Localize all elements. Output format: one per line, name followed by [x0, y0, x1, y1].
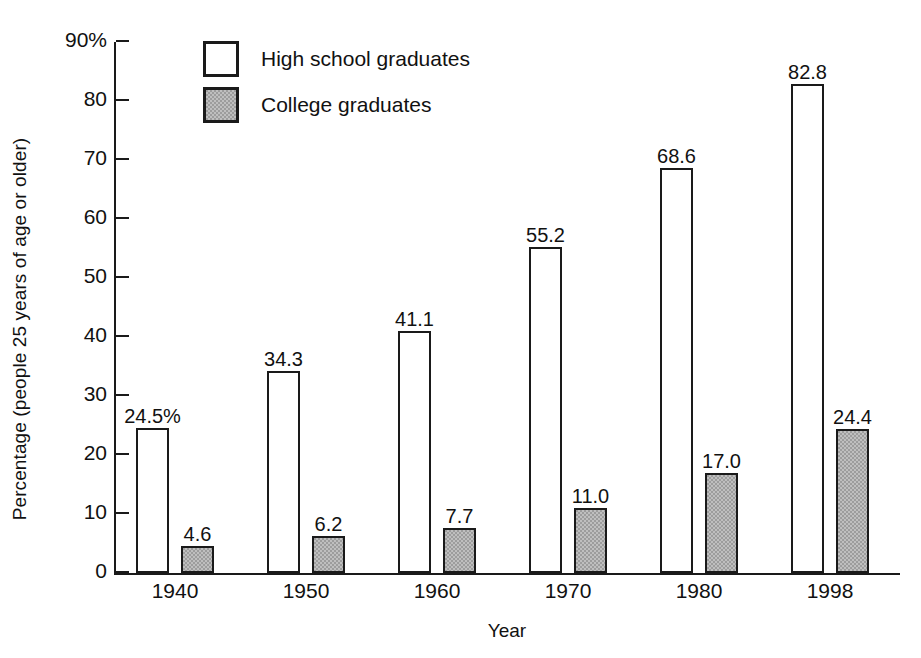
- bar-high-school: 41.1: [398, 331, 431, 573]
- y-axis-tick-label: 0: [95, 560, 107, 581]
- y-axis-tick-label: 20: [84, 442, 107, 463]
- legend-label-high-school: High school graduates: [261, 47, 470, 71]
- y-axis-tick-label: 70: [84, 147, 107, 168]
- bar-value-label: 24.4: [833, 406, 872, 428]
- bar-college: 4.6: [181, 546, 214, 573]
- bar-value-label: 17.0: [702, 450, 741, 472]
- bar-value-label: 41.1: [395, 308, 434, 330]
- x-axis-tick-label: 1960: [414, 579, 461, 603]
- y-axis-tick-label: 90%: [65, 29, 107, 50]
- bar-college: 7.7: [443, 528, 476, 573]
- legend-label-college: College graduates: [261, 93, 431, 117]
- bar-high-school: 24.5%: [136, 428, 169, 573]
- y-axis-tick: 80: [116, 99, 129, 101]
- bar-group: 82.824.41998: [791, 42, 900, 573]
- y-axis-tick-label: 10: [84, 501, 107, 522]
- y-axis-tick-label: 40: [84, 324, 107, 345]
- y-axis-line: [114, 42, 116, 573]
- y-axis-tick-label: 80: [84, 88, 107, 109]
- bar-value-label: 4.6: [184, 523, 212, 545]
- legend-item-high-school: High school graduates: [203, 36, 470, 82]
- bar-value-label: 68.6: [657, 145, 696, 167]
- y-axis-tick: 30: [116, 394, 129, 396]
- y-axis-tick: 60: [116, 217, 129, 219]
- bar-group: 68.617.01980: [660, 42, 769, 573]
- bar-value-label: 24.5%: [124, 405, 181, 427]
- bar-college: 6.2: [312, 536, 345, 573]
- bar-high-school: 82.8: [791, 84, 824, 573]
- legend-item-college: College graduates: [203, 82, 470, 128]
- bar-group: 55.211.01970: [529, 42, 638, 573]
- white-square-swatch-icon: [203, 41, 239, 77]
- bar-high-school: 55.2: [529, 247, 562, 573]
- x-axis-line: [114, 573, 900, 575]
- chart-legend: High school graduates College graduates: [203, 36, 470, 128]
- gray-square-swatch-icon: [203, 87, 239, 123]
- bar-college: 11.0: [574, 508, 607, 573]
- bar-value-label: 11.0: [572, 485, 609, 507]
- bar-chart-figure: Percentage (people 25 years of age or ol…: [0, 0, 921, 658]
- bar-value-label: 7.7: [446, 505, 474, 527]
- bar-value-label: 55.2: [526, 224, 565, 246]
- bar-high-school: 68.6: [660, 168, 693, 573]
- x-axis-tick-label: 1980: [676, 579, 723, 603]
- y-axis-tick: 90%: [116, 40, 129, 42]
- bar-value-label: 6.2: [315, 513, 343, 535]
- y-axis-tick: 50: [116, 276, 129, 278]
- y-axis-tick-label: 60: [84, 206, 107, 227]
- y-axis-tick: 40: [116, 335, 129, 337]
- x-axis-title: Year: [114, 620, 900, 642]
- y-axis-title: Percentage (people 25 years of age or ol…: [0, 0, 40, 658]
- y-axis-tick: 70: [116, 158, 129, 160]
- x-axis-tick-label: 1950: [283, 579, 330, 603]
- x-axis-tick-label: 1998: [807, 579, 854, 603]
- bar-value-label: 34.3: [264, 348, 303, 370]
- y-axis-tick: 20: [116, 453, 129, 455]
- bar-high-school: 34.3: [267, 371, 300, 573]
- y-axis-tick-label: 30: [84, 383, 107, 404]
- y-axis-tick: 10: [116, 512, 129, 514]
- bar-college: 17.0: [705, 473, 738, 573]
- x-axis-tick-label: 1940: [152, 579, 199, 603]
- bar-college: 24.4: [836, 429, 869, 573]
- bar-value-label: 82.8: [788, 61, 827, 83]
- x-axis-tick-label: 1970: [545, 579, 592, 603]
- y-axis-tick-label: 50: [84, 265, 107, 286]
- y-axis-tick: 0: [116, 571, 129, 573]
